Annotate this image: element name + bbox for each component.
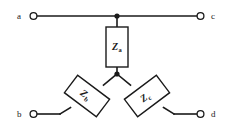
component-impedance-za[interactable]: Za bbox=[106, 27, 128, 67]
za-label-text: Z bbox=[111, 41, 118, 52]
terminal-ring-d[interactable] bbox=[197, 111, 204, 118]
terminal-label-a: a bbox=[17, 11, 21, 21]
junction-dot-top-node bbox=[114, 13, 119, 18]
terminal-ring-c[interactable] bbox=[197, 13, 204, 20]
terminal-label-d: d bbox=[211, 109, 216, 119]
wire-center-node-to-zb bbox=[104, 74, 118, 85]
wire-center-node-to-zc bbox=[117, 74, 131, 85]
circuit-diagram-canvas: Za Zb Zc bbox=[0, 0, 230, 131]
terminal-ring-a[interactable] bbox=[30, 13, 37, 20]
component-impedance-zb[interactable]: Zb bbox=[64, 75, 109, 117]
junction-dot-center-node bbox=[114, 71, 119, 76]
terminal-ring-b[interactable] bbox=[30, 111, 37, 118]
terminal-label-c: c bbox=[211, 11, 215, 21]
terminal-label-b: b bbox=[17, 109, 22, 119]
wire-zb-to-bend bbox=[60, 108, 71, 115]
wire-zc-to-bend bbox=[164, 108, 175, 115]
circuit-svg: Za Zb Zc bbox=[0, 0, 230, 131]
component-impedance-zc[interactable]: Zc bbox=[124, 75, 169, 117]
